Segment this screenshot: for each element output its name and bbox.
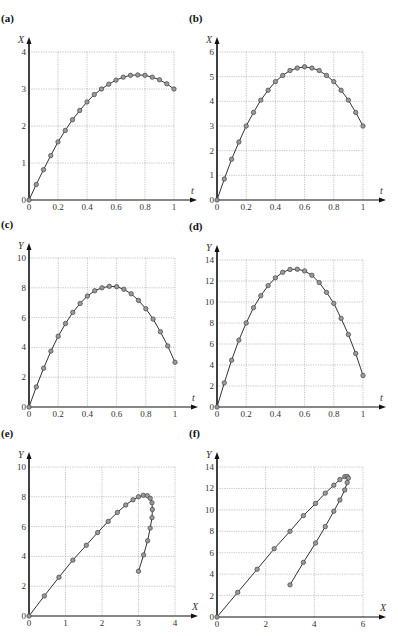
tick-labels: 00.20.40.60.810246810 (17, 253, 177, 419)
y-tick-label: 2 (210, 591, 215, 601)
data-point-marker (332, 509, 336, 513)
y-tick-label: 0 (210, 195, 215, 205)
data-point-marker (150, 501, 154, 505)
y-tick-label: 5 (210, 72, 215, 82)
data-point-marker (172, 87, 176, 91)
y-tick-label: 8 (210, 526, 215, 536)
data-point-marker (41, 366, 45, 370)
data-point-marker (323, 491, 327, 495)
axes (215, 37, 387, 203)
y-tick-label: 8 (22, 283, 27, 293)
y-tick-label: 8 (210, 318, 215, 328)
y-axis-label: Y (18, 240, 25, 251)
x-tick-label: 0.2 (241, 202, 252, 212)
y-tick-label: 2 (22, 581, 27, 591)
data-point-marker (27, 198, 31, 202)
data-point-marker (281, 73, 285, 77)
tick-labels: 00.20.40.60.8101234 (22, 47, 177, 212)
data-point-marker (354, 110, 358, 114)
data-point-marker (301, 513, 305, 517)
data-point-marker (136, 298, 140, 302)
y-tick-label: 1 (210, 170, 215, 180)
x-axis-arrow-icon (190, 198, 197, 203)
data-point-marker (107, 82, 111, 86)
x-tick-label: 6 (361, 619, 366, 629)
x-axis-label: t (380, 392, 383, 403)
x-tick-label: 0.4 (82, 409, 94, 419)
data-point-marker (259, 294, 263, 298)
data-point-marker (71, 310, 75, 314)
tick-labels: 00.20.40.60.8102468101214 (205, 255, 365, 419)
x-tick-label: 3 (136, 618, 141, 628)
y-tick-label: 2 (210, 381, 215, 391)
x-axis-label: t (380, 185, 383, 196)
data-point-marker (115, 510, 119, 514)
data-point-marker (166, 344, 170, 348)
data-point-marker (288, 68, 292, 72)
data-point-marker (63, 321, 67, 325)
y-tick-label: 0 (22, 611, 27, 621)
data-point-marker (361, 373, 365, 377)
data-point-marker (343, 488, 347, 492)
data-point-marker (338, 477, 342, 481)
data-point-marker (251, 110, 255, 114)
gridlines (29, 467, 175, 616)
data-point-marker (346, 332, 350, 336)
data-point-marker (302, 269, 306, 273)
data-point-marker (141, 553, 145, 557)
series-line (29, 495, 152, 616)
data-point-marker (317, 68, 321, 72)
y-axis-label: Y (18, 449, 25, 460)
data-point-marker (148, 496, 152, 500)
data-point-marker (310, 273, 314, 277)
data-point-marker (114, 284, 118, 288)
series-line (29, 286, 175, 407)
data-point-marker (165, 82, 169, 86)
data-point-marker (324, 290, 328, 294)
data-point-marker (288, 529, 292, 533)
data-point-marker (95, 530, 99, 534)
data-point-marker (93, 289, 97, 293)
data-point-marker (114, 78, 118, 82)
y-tick-label: 12 (205, 483, 214, 493)
data-point-marker (136, 495, 140, 499)
x-tick-label: 0 (27, 409, 32, 419)
x-tick-label: 0.4 (270, 409, 282, 419)
x-tick-label: 2 (100, 618, 105, 628)
data-point-marker (215, 615, 219, 619)
tick-labels: 012340246810 (17, 462, 178, 628)
y-tick-label: 4 (22, 342, 27, 352)
y-tick-label: 0 (22, 402, 27, 412)
x-tick-label: 1 (172, 202, 177, 212)
x-axis-arrow-icon (191, 405, 198, 410)
data-point-marker (281, 270, 285, 274)
six-panel-chart: 00.20.40.60.8101234Xt(a)00.20.40.60.8101… (0, 0, 398, 636)
data-point-marker (215, 198, 219, 202)
data-point-marker (136, 73, 140, 77)
series-markers (215, 474, 351, 619)
y-tick-label: 3 (210, 121, 215, 131)
tick-labels: 024602468101214 (205, 462, 366, 629)
y-tick-label: 10 (17, 253, 27, 263)
data-point-marker (361, 124, 365, 128)
x-tick-label: 0.6 (110, 202, 122, 212)
data-point-marker (229, 358, 233, 362)
y-axis-label: X (205, 34, 213, 45)
panel-label: (e) (1, 427, 14, 440)
x-tick-label: 0.6 (299, 202, 311, 212)
y-axis-arrow-icon (27, 452, 32, 459)
series-markers (27, 284, 177, 409)
x-tick-label: 1 (361, 409, 366, 419)
data-point-marker (49, 349, 53, 353)
data-point-marker (244, 124, 248, 128)
y-tick-label: 1 (22, 158, 27, 168)
data-point-marker (235, 590, 239, 594)
data-point-marker (136, 569, 140, 573)
data-point-marker (266, 283, 270, 287)
series-markers (215, 65, 365, 203)
x-tick-label: 0.8 (140, 409, 152, 419)
data-point-marker (339, 316, 343, 320)
series-line (217, 476, 348, 617)
chart-panel-d: 00.20.40.60.8102468101214Yt(d) (189, 220, 386, 419)
data-point-marker (317, 280, 321, 284)
